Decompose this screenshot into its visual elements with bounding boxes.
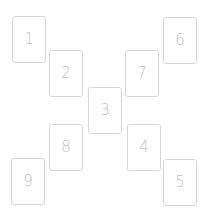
card-board: 1 2 3 4 5 6 7 8 9 [0, 0, 209, 218]
card-4[interactable]: 4 [127, 124, 161, 171]
card-7[interactable]: 7 [125, 50, 159, 97]
card-3[interactable]: 3 [88, 87, 122, 134]
card-label: 7 [137, 66, 147, 81]
card-label: 8 [61, 140, 71, 155]
card-label: 1 [24, 32, 34, 47]
card-6[interactable]: 6 [163, 17, 197, 64]
card-label: 9 [23, 174, 33, 189]
card-label: 3 [100, 103, 110, 118]
card-2[interactable]: 2 [49, 50, 83, 97]
card-label: 2 [61, 66, 71, 81]
card-5[interactable]: 5 [163, 159, 197, 206]
card-1[interactable]: 1 [12, 16, 46, 63]
card-9[interactable]: 9 [11, 158, 45, 205]
card-8[interactable]: 8 [49, 124, 83, 171]
card-label: 5 [175, 175, 185, 190]
card-label: 6 [175, 33, 185, 48]
card-label: 4 [139, 140, 149, 155]
